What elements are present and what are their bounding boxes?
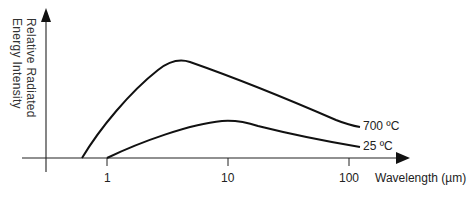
curve-25c xyxy=(107,121,360,158)
y-axis-label: Relative Radiated Energy Intensity xyxy=(2,18,38,138)
series-label-25c: 25 ºC xyxy=(363,139,393,153)
x-tick-label-100: 100 xyxy=(339,171,359,185)
y-axis-label-line2: Energy Intensity xyxy=(10,18,24,118)
x-tick-label-10: 10 xyxy=(221,171,234,185)
curve-700c xyxy=(82,60,360,158)
y-axis-label-line1: Relative Radiated xyxy=(24,18,38,118)
x-axis-label: Wavelength (µm) xyxy=(375,171,466,185)
x-tick-label-1: 1 xyxy=(104,171,111,185)
radiation-curve-chart xyxy=(0,0,474,198)
series-label-700c: 700 ºC xyxy=(363,119,399,133)
y-axis-arrowhead-icon xyxy=(41,8,51,22)
x-axis-arrowhead-icon xyxy=(396,152,410,164)
